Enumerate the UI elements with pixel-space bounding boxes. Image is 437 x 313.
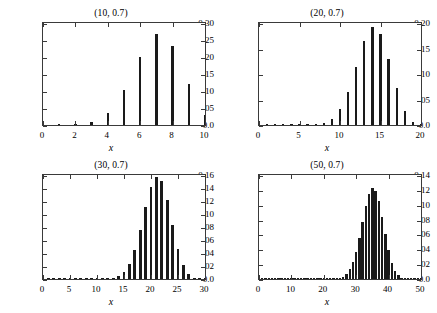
plot-inner [43,23,205,125]
x-axis-label: x [8,143,214,153]
x-tick [421,121,422,125]
bar [349,269,351,279]
bar [101,278,104,279]
bar [166,200,169,279]
bar [306,124,308,125]
x-tick [108,121,109,125]
bar [391,263,393,279]
x-tick-label: 10 [92,285,101,294]
y-tick [259,206,263,207]
x-tick [75,23,76,27]
bar [85,278,88,279]
y-tick [43,58,47,59]
bar [90,278,93,279]
y-tick [43,280,47,281]
x-tick-label: 0 [256,131,261,140]
x-tick-label: 20 [416,131,425,140]
y-tick [417,221,421,222]
y-tick [259,126,263,127]
y-tick [201,280,205,281]
bar [58,278,61,279]
panel-title: (20, 0.7) [224,6,430,20]
x-tick [124,275,125,279]
y-tick [259,75,263,76]
x-tick-label: 10 [200,131,209,140]
bar [106,278,109,279]
bar [280,278,282,279]
x-tick-label: 0 [40,285,45,294]
bar [271,278,273,279]
x-tick [259,275,260,279]
y-tick [417,191,421,192]
panel-2: (20, 0.7)0.00.050.100.150.2005101520x [224,6,430,156]
bar [371,27,373,125]
y-tick [201,241,205,242]
x-tick [173,121,174,125]
y-tick [201,41,205,42]
plot-inner [43,175,205,279]
bar [378,201,380,279]
bar [123,90,125,125]
x-tick [205,23,206,27]
bar [150,187,153,279]
x-tick [389,275,390,279]
x-tick [43,175,44,179]
y-tick [259,101,263,102]
bar [323,123,325,125]
y-tick [259,50,263,51]
x-tick [300,121,301,125]
bar [287,278,289,279]
bar [58,124,60,125]
bar [277,278,279,279]
bar [144,207,147,279]
y-tick [259,265,263,266]
x-tick [340,23,341,27]
bar [315,124,317,125]
bar [342,277,344,279]
x-tick [140,23,141,27]
bar [274,278,276,279]
x-tick [151,175,152,179]
x-tick-label: 25 [173,285,182,294]
x-tick [70,275,71,279]
y-tick [43,75,47,76]
y-tick [201,202,205,203]
x-tick [381,121,382,125]
bar [293,278,295,279]
y-tick [417,265,421,266]
x-tick [300,23,301,27]
x-tick [75,121,76,125]
x-axis-label: x [224,297,430,307]
x-tick-label: 0 [256,285,261,294]
x-tick [356,175,357,179]
x-tick [421,175,422,179]
bar [128,264,131,279]
bar [187,274,190,279]
y-tick [417,206,421,207]
panel-4: (50, 0.7)0.00.020.040.060.080.100.120.14… [224,158,430,310]
bar [310,278,312,279]
x-tick [389,175,390,179]
bar [268,278,270,279]
x-axis-label: x [8,297,214,307]
bar [396,88,398,125]
bar [198,278,201,279]
bar [381,217,383,279]
y-tick [43,254,47,255]
x-tick-label: 5 [296,131,301,140]
bar [368,194,370,279]
y-tick [417,280,421,281]
bar [290,124,292,125]
panel-3: (30, 0.7)0.00.020.040.060.080.100.120.14… [8,158,214,310]
x-tick [324,275,325,279]
bar [345,274,347,279]
x-tick [205,121,206,125]
y-tick [43,189,47,190]
bar [394,271,396,279]
x-tick [43,23,44,27]
y-tick [259,280,263,281]
panel-1: (10, 0.7)0.00.050.100.150.200.250.300246… [8,6,214,156]
bar [358,238,360,279]
x-tick-label: 15 [119,285,128,294]
x-tick-label: 2 [72,131,77,140]
